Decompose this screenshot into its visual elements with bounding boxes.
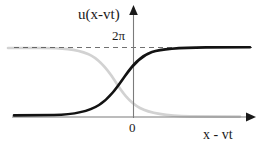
sine-gordon-kink-figure: u(x-vt) 2π 0 x - vt — [0, 0, 265, 152]
antikink-curve — [8, 48, 240, 117]
y-axis-label: u(x-vt) — [78, 7, 120, 22]
x-axis-arrow-icon — [246, 113, 256, 122]
asymptote-level-label: 2π — [112, 29, 125, 42]
y-axis-arrow-icon — [129, 5, 138, 15]
origin-tick-label: 0 — [129, 121, 136, 134]
kink-curve — [14, 47, 250, 115]
x-axis-label: x - vt — [203, 128, 233, 142]
